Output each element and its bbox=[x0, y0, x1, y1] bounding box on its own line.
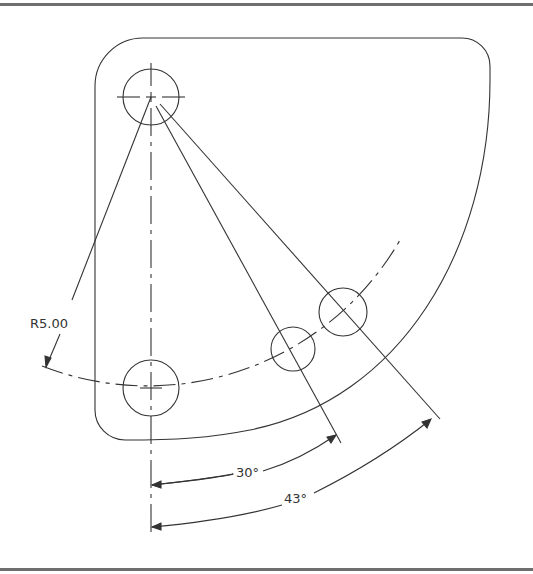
radius-dimension-label: R5.00 bbox=[30, 316, 68, 331]
angle-30-label: 30° bbox=[236, 465, 259, 480]
hole-30deg bbox=[271, 327, 315, 371]
cad-drawing: R5.00 30° 43° bbox=[0, 0, 533, 574]
angle-43-label: 43° bbox=[284, 491, 307, 506]
plate-outline bbox=[95, 38, 490, 440]
arrow-30-right bbox=[327, 435, 336, 443]
line-30deg bbox=[156, 106, 341, 443]
radius-leader-upper bbox=[72, 97, 151, 300]
arrow-30-left bbox=[152, 481, 161, 488]
line-43deg bbox=[160, 104, 440, 419]
arrow-43-right bbox=[422, 419, 431, 428]
arrow-43-left bbox=[152, 523, 161, 530]
radius-arrowhead bbox=[45, 356, 51, 367]
